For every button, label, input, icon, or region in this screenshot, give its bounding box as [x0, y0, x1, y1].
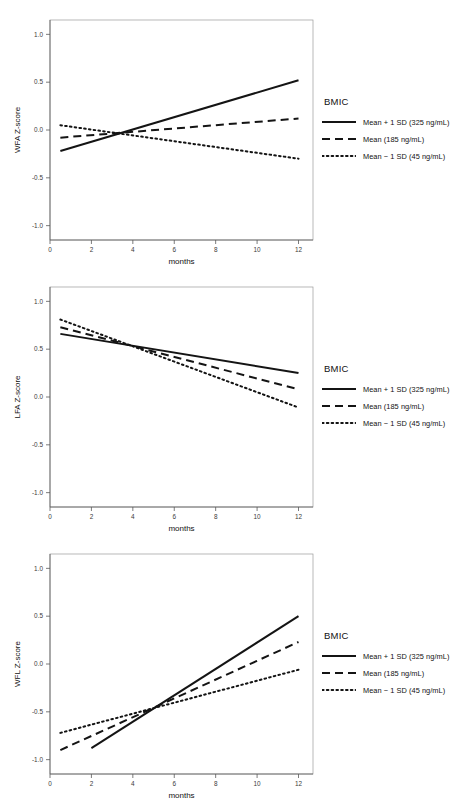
legend-item-label: Mean + 1 SD (325 ng/mL) [363, 652, 449, 661]
y-tick-label: 0.0 [34, 660, 43, 667]
x-tick-label: 8 [214, 246, 218, 253]
x-tick-label: 12 [295, 246, 303, 253]
y-tick-label: 1.0 [34, 298, 43, 305]
legend-title: BMIC [324, 363, 457, 374]
x-tick-label: 2 [90, 246, 94, 253]
plot-area-2: 1.00.50.0-0.5-1.0024681012monthsWFL Z-sc… [0, 534, 330, 802]
y-tick-label: -0.5 [32, 708, 43, 715]
plot-area-1: 1.00.50.0-0.5-1.0024681012monthsLFA Z-sc… [0, 267, 330, 535]
plot-frame [50, 554, 313, 774]
legend-item-label: Mean (185 ng/mL) [363, 669, 424, 678]
plot-svg: 1.00.50.0-0.5-1.0024681012monthsWFL Z-sc… [0, 534, 330, 802]
series-line-1 [60, 327, 298, 389]
series-line-1 [60, 119, 298, 138]
series-line-0 [60, 80, 298, 151]
y-tick-label: 0.0 [34, 393, 43, 400]
x-tick-label: 2 [90, 780, 94, 787]
x-tick-label: 8 [214, 780, 218, 787]
x-axis-title: months [168, 257, 194, 266]
legend-item-label: Mean + 1 SD (325 ng/mL) [363, 118, 449, 127]
x-tick-label: 4 [131, 246, 135, 253]
plot-svg: 1.00.50.0-0.5-1.0024681012monthsLFA Z-sc… [0, 267, 330, 535]
legend-item-2: Mean − 1 SD (45 ng/mL) [322, 416, 457, 430]
series-line-2 [60, 320, 298, 408]
x-tick-label: 10 [254, 780, 262, 787]
y-tick-label: 0.5 [34, 345, 43, 352]
x-tick-label: 2 [90, 513, 94, 520]
legend-item-0: Mean + 1 SD (325 ng/mL) [322, 382, 457, 396]
legend-item-label: Mean (185 ng/mL) [363, 135, 424, 144]
x-tick-label: 10 [254, 513, 262, 520]
legend-key-dashed-icon [322, 668, 356, 678]
y-tick-label: -0.5 [32, 174, 43, 181]
legend: BMICMean + 1 SD (325 ng/mL)Mean (185 ng/… [322, 630, 457, 700]
legend: BMICMean + 1 SD (325 ng/mL)Mean (185 ng/… [322, 363, 457, 433]
x-tick-label: 12 [295, 780, 303, 787]
y-tick-label: 1.0 [34, 565, 43, 572]
series-line-2 [60, 670, 298, 733]
y-tick-label: -0.5 [32, 441, 43, 448]
chart-panel-wfa: 1.00.50.0-0.5-1.0024681012monthsWFA Z-sc… [0, 0, 457, 268]
legend-key-dotted-icon [322, 151, 356, 161]
legend-item-label: Mean − 1 SD (45 ng/mL) [363, 152, 445, 161]
series-line-0 [91, 616, 298, 748]
legend-item-label: Mean (185 ng/mL) [363, 402, 424, 411]
legend-item-1: Mean (185 ng/mL) [322, 132, 457, 146]
legend-key-dotted-icon [322, 418, 356, 428]
legend-key-dashed-icon [322, 134, 356, 144]
plot-area-0: 1.00.50.0-0.5-1.0024681012monthsWFA Z-sc… [0, 0, 330, 268]
y-tick-label: 0.5 [34, 612, 43, 619]
y-axis-title: LFA Z-score [13, 375, 22, 419]
x-tick-label: 8 [214, 513, 218, 520]
y-axis-title: WFA Z-score [13, 106, 22, 153]
y-tick-label: -1.0 [32, 222, 43, 229]
legend: BMICMean + 1 SD (325 ng/mL)Mean (185 ng/… [322, 96, 457, 166]
x-axis-title: months [168, 524, 194, 533]
legend-title: BMIC [324, 96, 457, 107]
x-axis-title: months [168, 791, 194, 800]
legend-key-dotted-icon [322, 685, 356, 695]
legend-item-1: Mean (185 ng/mL) [322, 666, 457, 680]
y-tick-label: -1.0 [32, 489, 43, 496]
chart-panel-lfa: 1.00.50.0-0.5-1.0024681012monthsLFA Z-sc… [0, 267, 457, 535]
x-tick-label: 4 [131, 513, 135, 520]
legend-key-solid-icon [322, 384, 356, 394]
y-tick-label: 0.0 [34, 126, 43, 133]
legend-title: BMIC [324, 630, 457, 641]
y-tick-label: 0.5 [34, 78, 43, 85]
series-line-2 [60, 125, 298, 158]
x-tick-label: 10 [254, 246, 262, 253]
figure-three-panel-zscore-trajectories: 1.00.50.0-0.5-1.0024681012monthsWFA Z-sc… [0, 0, 457, 803]
legend-item-0: Mean + 1 SD (325 ng/mL) [322, 649, 457, 663]
y-tick-label: -1.0 [32, 756, 43, 763]
series-line-1 [60, 642, 298, 750]
x-tick-label: 6 [172, 513, 176, 520]
legend-item-1: Mean (185 ng/mL) [322, 399, 457, 413]
series-line-0 [60, 334, 298, 373]
x-tick-label: 6 [172, 780, 176, 787]
x-tick-label: 0 [48, 513, 52, 520]
legend-item-label: Mean + 1 SD (325 ng/mL) [363, 385, 449, 394]
legend-item-2: Mean − 1 SD (45 ng/mL) [322, 149, 457, 163]
y-axis-title: WFL Z-score [13, 640, 22, 686]
legend-key-solid-icon [322, 651, 356, 661]
plot-frame [50, 287, 313, 507]
x-tick-label: 0 [48, 246, 52, 253]
plot-svg: 1.00.50.0-0.5-1.0024681012monthsWFA Z-sc… [0, 0, 330, 268]
x-tick-label: 6 [172, 246, 176, 253]
x-tick-label: 12 [295, 513, 303, 520]
legend-item-label: Mean − 1 SD (45 ng/mL) [363, 419, 445, 428]
x-tick-label: 0 [48, 780, 52, 787]
legend-item-2: Mean − 1 SD (45 ng/mL) [322, 683, 457, 697]
legend-key-dashed-icon [322, 401, 356, 411]
legend-key-solid-icon [322, 117, 356, 127]
y-tick-label: 1.0 [34, 31, 43, 38]
legend-item-0: Mean + 1 SD (325 ng/mL) [322, 115, 457, 129]
x-tick-label: 4 [131, 780, 135, 787]
legend-item-label: Mean − 1 SD (45 ng/mL) [363, 686, 445, 695]
chart-panel-wfl: 1.00.50.0-0.5-1.0024681012monthsWFL Z-sc… [0, 534, 457, 802]
